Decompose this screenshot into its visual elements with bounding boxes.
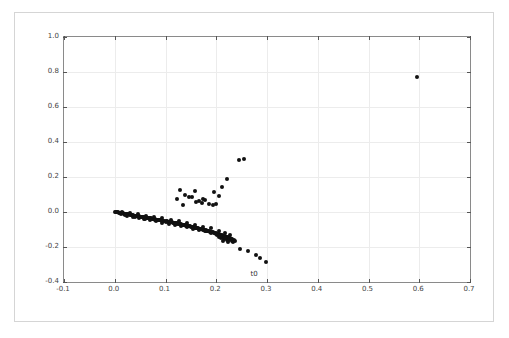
x-tick-mark-top <box>267 36 268 40</box>
scatter-point <box>123 213 127 217</box>
y-tick-mark <box>63 247 67 248</box>
scatter-point <box>258 256 262 260</box>
y-tick-mark-right <box>467 247 471 248</box>
scatter-point <box>221 239 225 243</box>
x-tick-label: 0.0 <box>108 285 119 293</box>
x-tick-label: 0.7 <box>463 285 474 293</box>
scatter-point <box>238 247 242 251</box>
scatter-point <box>211 203 215 207</box>
x-tick-mark <box>267 279 268 283</box>
x-tick-mark-top <box>318 36 319 40</box>
y-tick-label: 1.0 <box>41 32 59 40</box>
x-tick-mark <box>166 279 167 283</box>
scatter-point <box>143 217 147 221</box>
gridline-horizontal <box>64 142 470 143</box>
y-tick-mark-right <box>467 177 471 178</box>
y-tick-mark <box>63 212 67 213</box>
y-tick-label: 0.0 <box>41 207 59 215</box>
gridline-vertical <box>216 37 217 282</box>
scatter-point <box>175 197 179 201</box>
x-tick-mark <box>369 279 370 283</box>
x-tick-mark-top <box>166 36 167 40</box>
scatter-point <box>217 229 221 233</box>
y-tick-label: -0.4 <box>41 277 59 285</box>
gridline-horizontal <box>64 177 470 178</box>
y-tick-mark <box>63 142 67 143</box>
x-tick-label: 0.4 <box>311 285 322 293</box>
x-axis-label: t0 <box>250 270 257 278</box>
y-tick-label: 0.4 <box>41 137 59 145</box>
scatter-point <box>187 195 191 199</box>
x-tick-label: 0.5 <box>362 285 373 293</box>
gridline-horizontal <box>64 247 470 248</box>
gridline-vertical <box>369 37 370 282</box>
x-tick-mark <box>318 279 319 283</box>
gridline-vertical <box>166 37 167 282</box>
scatter-point <box>174 222 178 226</box>
scatter-point <box>193 189 197 193</box>
y-tick-mark <box>63 177 67 178</box>
scatter-point <box>137 216 141 220</box>
scatter-point <box>220 185 224 189</box>
y-tick-mark <box>63 107 67 108</box>
scatter-point <box>246 249 250 253</box>
x-tick-label: 0.1 <box>159 285 170 293</box>
y-tick-label: 0.8 <box>41 67 59 75</box>
y-tick-label: -0.2 <box>41 242 59 250</box>
y-tick-mark-right <box>467 107 471 108</box>
x-tick-mark-top <box>115 36 116 40</box>
scatter-point <box>225 177 229 181</box>
scatter-point <box>169 218 173 222</box>
scatter-point <box>133 215 137 219</box>
scatter-point <box>178 188 182 192</box>
scatter-point <box>237 158 241 162</box>
scatter-point <box>204 229 208 233</box>
gridline-horizontal <box>64 72 470 73</box>
gridline-vertical <box>318 37 319 282</box>
x-tick-mark <box>419 279 420 283</box>
scatter-point <box>226 240 230 244</box>
scatter-point <box>223 236 227 240</box>
scatter-point <box>242 157 246 161</box>
x-tick-label: 0.6 <box>413 285 424 293</box>
scatter-point <box>128 211 132 215</box>
scatter-point <box>200 201 204 205</box>
figure-card: -0.10.00.10.20.30.40.50.60.7 -0.4-0.20.0… <box>14 12 494 322</box>
x-tick-mark-top <box>369 36 370 40</box>
scatter-point <box>201 225 205 229</box>
x-tick-mark <box>216 279 217 283</box>
scatter-point <box>164 220 168 224</box>
screenshot-root: -0.10.00.10.20.30.40.50.60.7 -0.4-0.20.0… <box>0 0 509 338</box>
x-tick-label: 0.2 <box>210 285 221 293</box>
scatter-point <box>231 240 235 244</box>
scatter-point <box>217 194 221 198</box>
gridline-vertical <box>419 37 420 282</box>
plot-axes <box>63 36 471 283</box>
scatter-point <box>194 200 198 204</box>
x-tick-mark-top <box>216 36 217 40</box>
gridline-vertical <box>115 37 116 282</box>
x-tick-label: 0.3 <box>260 285 271 293</box>
y-tick-label: 0.2 <box>41 172 59 180</box>
y-tick-mark <box>63 282 67 283</box>
y-tick-mark <box>63 72 67 73</box>
scatter-point <box>181 203 185 207</box>
x-tick-mark-top <box>419 36 420 40</box>
scatter-point <box>148 218 152 222</box>
gridline-vertical <box>267 37 268 282</box>
scatter-point <box>415 75 419 79</box>
x-tick-label: -0.1 <box>56 285 70 293</box>
y-tick-mark-right <box>467 142 471 143</box>
y-tick-mark-right <box>467 37 471 38</box>
scatter-point <box>217 235 221 239</box>
gridline-horizontal <box>64 107 470 108</box>
y-tick-mark-right <box>467 72 471 73</box>
y-tick-mark <box>63 37 67 38</box>
x-tick-mark <box>115 279 116 283</box>
y-tick-mark-right <box>467 282 471 283</box>
scatter-point <box>203 198 207 202</box>
scatter-point <box>179 224 183 228</box>
y-tick-label: 0.6 <box>41 102 59 110</box>
y-tick-mark-right <box>467 212 471 213</box>
